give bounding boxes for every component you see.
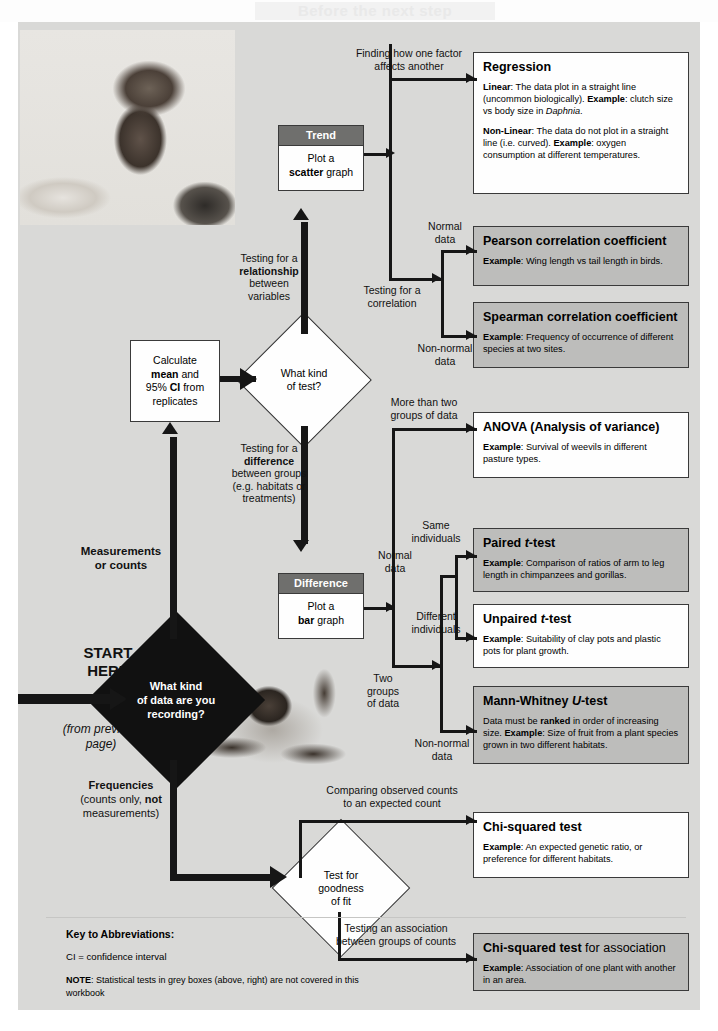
graph-box-difference-body: Plot a bar graph bbox=[279, 594, 363, 634]
arrow-to-pearson bbox=[466, 245, 475, 255]
arrow-data-to-gof bbox=[270, 866, 287, 888]
arrow-test-to-difference bbox=[293, 540, 309, 552]
page-header-title: Before the next step bbox=[255, 2, 495, 20]
line-data-to-gof bbox=[170, 874, 280, 881]
label-testing-difference: Testing for a difference between groups … bbox=[212, 442, 326, 505]
result-title-regression: Regression bbox=[483, 60, 679, 75]
arrow-to-anova bbox=[466, 423, 475, 433]
decision-what-kind-of-test: What kindof test? bbox=[256, 332, 352, 428]
label-non-normal-data-difference: Non-normal data bbox=[406, 737, 478, 762]
label-from-previous-page: (from previouspage) bbox=[36, 722, 166, 752]
label-comparing-observed-counts: Comparing observed counts to an expected… bbox=[308, 784, 476, 809]
label-more-than-two-groups: More than two groups of data bbox=[372, 396, 476, 421]
result-body-paired-t-test: Example: Comparison of ratios of arm to … bbox=[483, 557, 679, 581]
start-arrow-head bbox=[110, 688, 127, 710]
result-title-mann-whitney: Mann-Whitney U-test bbox=[483, 694, 679, 709]
key-note: NOTE: Statistical tests in grey boxes (a… bbox=[66, 974, 366, 1000]
label-testing-relationship: Testing for a relationship between varia… bbox=[214, 252, 324, 302]
result-body-chi-squared: Example: An expected genetic ratio, or p… bbox=[483, 841, 679, 865]
page-header-strip: Before the next step bbox=[0, 0, 718, 22]
key-to-abbreviations: Key to Abbreviations: CI = confidence in… bbox=[66, 928, 366, 1000]
flowchart-page: Before the next step Regression Linear: … bbox=[0, 0, 718, 1031]
result-box-paired-t-test: Paired t-test Example: Comparison of rat… bbox=[473, 528, 689, 592]
result-box-pearson: Pearson correlation coefficient Example:… bbox=[473, 226, 689, 286]
key-line-ci: CI = confidence interval bbox=[66, 950, 366, 963]
arrow-to-spearman bbox=[466, 330, 475, 340]
graph-box-trend-body: Plot a scatter graph bbox=[279, 146, 363, 186]
lead-linear: Linear bbox=[483, 82, 511, 92]
flowchart-canvas: Regression Linear: The data plot in a st… bbox=[18, 22, 700, 1010]
result-body-anova: Example: Survival of weevils in differen… bbox=[483, 441, 679, 465]
result-title-chi-squared-association: Chi-squared test for association bbox=[483, 941, 679, 956]
arrow-to-correlation bbox=[432, 273, 441, 283]
arrow-to-mann-whitney bbox=[466, 725, 475, 735]
arrow-to-paired bbox=[466, 550, 475, 560]
result-box-regression: Regression Linear: The data plot in a st… bbox=[473, 52, 689, 194]
key-divider bbox=[46, 917, 686, 918]
result-box-chi-squared-association: Chi-squared test for association Example… bbox=[473, 933, 689, 991]
graph-box-difference-header: Difference bbox=[279, 574, 363, 594]
key-title: Key to Abbreviations: bbox=[66, 928, 366, 941]
graph-box-trend-header: Trend bbox=[279, 126, 363, 146]
label-testing-correlation: Testing for a correlation bbox=[344, 284, 440, 309]
student-with-laptop-photo bbox=[20, 30, 235, 225]
label-normal-data-difference: Normal data bbox=[366, 549, 424, 574]
result-box-spearman: Spearman correlation coefficient Example… bbox=[473, 302, 689, 368]
arrow-mean-to-test bbox=[240, 368, 257, 390]
label-two-groups-of-data: Two groups of data bbox=[354, 672, 412, 710]
result-title-unpaired-t-test: Unpaired t-test bbox=[483, 612, 679, 627]
label-measurements-or-counts: Measurementsor counts bbox=[66, 544, 176, 572]
arrow-gof-to-chi bbox=[466, 815, 475, 825]
line-to-anova bbox=[392, 428, 477, 431]
result-box-chi-squared: Chi-squared test Example: An expected ge… bbox=[473, 812, 689, 878]
line-data-to-mean bbox=[170, 437, 177, 639]
result-title-paired-t-test: Paired t-test bbox=[483, 536, 679, 551]
line-gof-to-chi bbox=[299, 820, 477, 823]
result-title-anova: ANOVA (Analysis of variance) bbox=[483, 420, 679, 435]
lead-nonlinear: Non-Linear bbox=[483, 126, 532, 136]
calculate-mean-ci-text: Calculate mean and 95% CI from replicate… bbox=[146, 354, 204, 408]
arrow-to-regression bbox=[466, 73, 475, 83]
result-title-pearson: Pearson correlation coefficient bbox=[483, 234, 679, 249]
decision-test-text: What kindof test? bbox=[256, 332, 352, 428]
result-box-unpaired-t-test: Unpaired t-test Example: Suitability of … bbox=[473, 604, 689, 668]
label-non-normal-data-correlation: Non-normal data bbox=[410, 342, 480, 367]
result-body-unpaired-t-test: Example: Suitability of clay pots and pl… bbox=[483, 633, 679, 657]
arrow-gof-to-chi-assoc bbox=[466, 953, 475, 963]
result-body-regression: Linear: The data plot in a straight line… bbox=[483, 81, 679, 161]
result-box-mann-whitney: Mann-Whitney U-test Data must be ranked … bbox=[473, 686, 689, 764]
start-arrow-shaft bbox=[18, 694, 114, 704]
result-title-chi-squared: Chi-squared test bbox=[483, 820, 679, 835]
line-gof-up bbox=[299, 820, 302, 878]
result-box-anova: ANOVA (Analysis of variance) Example: Su… bbox=[473, 412, 689, 478]
graph-box-difference: Difference Plot a bar graph bbox=[278, 573, 364, 639]
line-to-regression bbox=[389, 78, 477, 81]
result-body-chi-squared-association: Example: Association of one plant with a… bbox=[483, 962, 679, 986]
calculate-mean-ci-box: Calculate mean and 95% CI from replicate… bbox=[130, 340, 220, 422]
label-normal-data-correlation: Normal data bbox=[416, 220, 474, 245]
line-two-groups-split bbox=[440, 575, 443, 730]
label-start-here: STARTHERE bbox=[60, 644, 156, 680]
line-correlation-split bbox=[441, 250, 444, 338]
result-body-pearson: Example: Wing length vs tail length in b… bbox=[483, 255, 679, 267]
label-one-factor-affects-another: Finding how one factor affects another bbox=[344, 47, 474, 72]
arrow-data-to-mean bbox=[162, 422, 178, 434]
graph-box-trend: Trend Plot a scatter graph bbox=[278, 125, 364, 191]
label-frequencies: Frequencies (counts only, not measuremen… bbox=[58, 778, 184, 820]
label-different-individuals: Different individuals bbox=[398, 610, 474, 635]
line-difference-vertical bbox=[392, 428, 395, 668]
label-same-individuals: Same individuals bbox=[400, 519, 472, 544]
arrow-test-to-trend bbox=[293, 208, 309, 220]
result-title-spearman: Spearman correlation coefficient bbox=[483, 310, 679, 325]
result-body-mann-whitney: Data must be ranked in order of increasi… bbox=[483, 715, 679, 752]
result-body-spearman: Example: Frequency of occurrence of diff… bbox=[483, 331, 679, 355]
